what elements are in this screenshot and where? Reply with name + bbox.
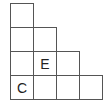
grid-cell xyxy=(56,75,80,100)
grid-cell xyxy=(33,27,57,52)
grid-cell xyxy=(79,75,103,100)
grid-cell xyxy=(10,3,34,28)
grid-cell xyxy=(33,75,57,100)
grid-cell xyxy=(10,51,34,76)
grid-cell xyxy=(10,27,34,52)
grid-cell xyxy=(56,51,80,76)
grid-cell-e: E xyxy=(33,51,57,76)
grid-cell-c: C xyxy=(10,75,34,100)
